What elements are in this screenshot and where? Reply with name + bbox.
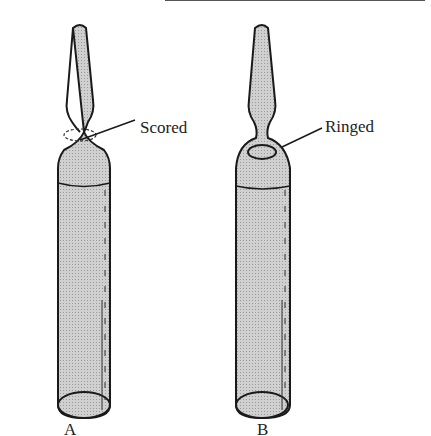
label-b: B <box>257 420 268 436</box>
label-a: A <box>64 420 76 436</box>
ampule-b <box>236 25 322 418</box>
ring <box>248 145 276 159</box>
annotation-scored: Scored <box>140 118 187 138</box>
annotation-ringed: Ringed <box>325 117 374 137</box>
ampule-a <box>58 25 135 418</box>
ampules-diagram <box>0 0 431 436</box>
